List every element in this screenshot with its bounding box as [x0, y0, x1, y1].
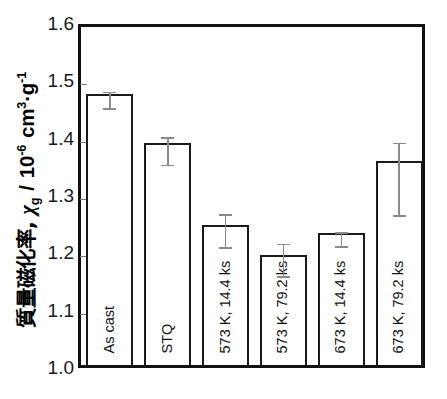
error-bar-cap-upper [219, 214, 232, 216]
y-axis-tick-label: 1.5 [30, 71, 74, 90]
error-bar-cap-upper [103, 92, 116, 94]
error-bar-cap-upper [277, 244, 290, 246]
error-bar [167, 137, 169, 165]
plot-inner: As castSTQ573 K, 14.4 ks573 K, 79.2 ks67… [81, 27, 422, 365]
bar-category-label: 673 K, 79.2 ks [391, 260, 406, 353]
error-bar-cap-lower [161, 165, 174, 167]
y-axis-tick-label: 1.0 [30, 358, 74, 377]
y-axis-tick-label: 1.4 [30, 129, 74, 148]
error-bar [283, 244, 285, 277]
error-bar-cap-upper [335, 232, 348, 234]
bar-category-label: STQ [159, 323, 174, 353]
plot-area: As castSTQ573 K, 14.4 ks573 K, 79.2 ks67… [78, 24, 425, 368]
y-axis-tick-mark [80, 84, 87, 85]
y-axis-tick-label: 1.3 [30, 186, 74, 205]
bar-category-label: As cast [101, 305, 116, 353]
error-bar [398, 143, 400, 215]
error-bar-cap-upper [161, 137, 174, 139]
error-bar-cap-upper [393, 143, 406, 145]
y-axis-tick-labels: 1.61.51.41.31.21.11.0 [26, 0, 74, 399]
error-bar [341, 232, 343, 246]
error-bar-cap-lower [277, 276, 290, 278]
error-bar-cap-lower [335, 246, 348, 248]
y-axis-tick-label: 1.2 [30, 243, 74, 262]
error-bar [225, 214, 227, 247]
y-axis-tick-label: 1.1 [30, 301, 74, 320]
error-bar-cap-lower [103, 108, 116, 110]
error-bar-cap-lower [219, 247, 232, 249]
chart-figure: 質量磁化率, χg / 10-6 cm3·g-1 1.61.51.41.31.2… [0, 0, 447, 399]
bar-category-label: 673 K, 14.4 ks [333, 260, 348, 353]
bar-category-label: 573 K, 14.4 ks [217, 260, 232, 353]
error-bar-cap-lower [393, 215, 406, 217]
error-bar [109, 92, 111, 109]
y-axis-tick-label: 1.6 [30, 14, 74, 33]
